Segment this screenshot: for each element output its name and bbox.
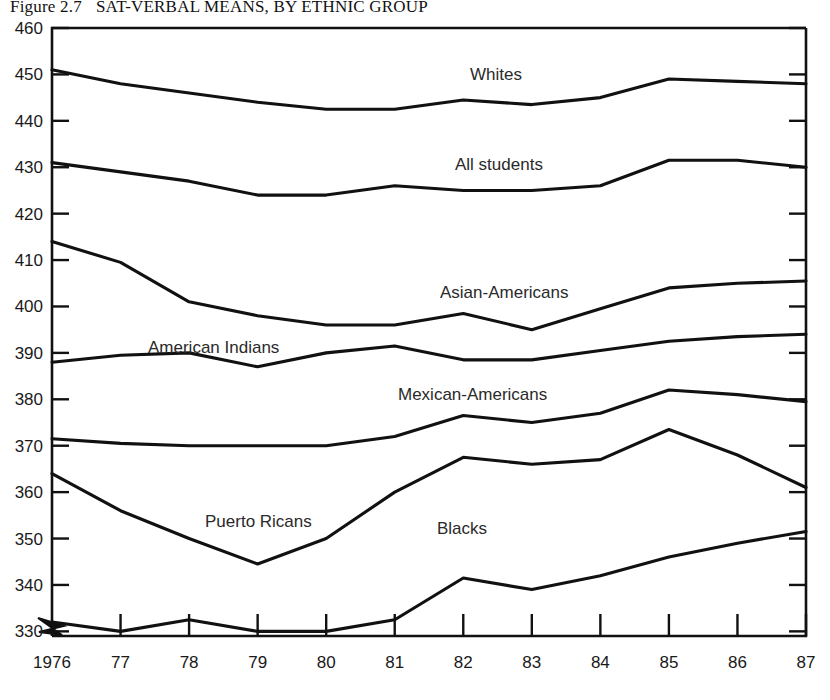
y-tick-label: 420 [15, 205, 43, 224]
series-label-group: WhitesAll studentsAsian-AmericansAmerica… [148, 65, 569, 538]
series-label-asian-americans: Asian-Americans [440, 283, 569, 302]
y-tick-label: 340 [15, 576, 43, 595]
x-tick-label: 81 [385, 653, 404, 672]
y-tick-label: 400 [15, 297, 43, 316]
axis-bottom-right [52, 28, 806, 636]
x-tick-label: 79 [248, 653, 267, 672]
x-tick-label: 85 [659, 653, 678, 672]
x-tick-label: 83 [522, 653, 541, 672]
y-tick-label: 380 [15, 390, 43, 409]
y-axis-tick-labels: 3303403503603703803904004104204304404504… [15, 19, 43, 641]
series-line-puerto-ricans [52, 429, 806, 564]
plot-frame [38, 28, 806, 636]
y-tick-label: 450 [15, 65, 43, 84]
series-label-mexican-americans: Mexican-Americans [398, 385, 547, 404]
series-label-puerto-ricans: Puerto Ricans [205, 512, 312, 531]
x-tick-label: 80 [317, 653, 336, 672]
y-tick-label: 460 [15, 19, 43, 38]
x-tick-label: 86 [728, 653, 747, 672]
y-tick-label: 390 [15, 344, 43, 363]
series-line-all-students [52, 160, 806, 195]
x-tick-label: 84 [591, 653, 610, 672]
series-label-whites: Whites [470, 65, 522, 84]
figure-container: Figure 2.7SAT-VERBAL MEANS, BY ETHNIC GR… [0, 0, 830, 700]
y-tick-label: 360 [15, 483, 43, 502]
axis-left-top [52, 28, 806, 636]
y-axis-ticks [52, 28, 806, 631]
x-tick-label: 77 [111, 653, 130, 672]
series-label-all-students: All students [455, 155, 543, 174]
series-line-whites [52, 70, 806, 109]
series-label-american-indians: American Indians [148, 338, 279, 357]
y-tick-label: 410 [15, 251, 43, 270]
x-tick-label: 82 [454, 653, 473, 672]
y-tick-label: 430 [15, 158, 43, 177]
series-label-blacks: Blacks [437, 519, 487, 538]
series-line-asian-americans [52, 242, 806, 330]
x-axis-tick-labels: 19767778798081828384858687 [33, 653, 815, 672]
y-tick-label: 440 [15, 112, 43, 131]
y-tick-label: 370 [15, 437, 43, 456]
sat-verbal-line-chart: 3303403503603703803904004104204304404504… [0, 0, 830, 700]
series-line-blacks [52, 532, 806, 632]
x-tick-label: 87 [797, 653, 816, 672]
y-tick-label: 350 [15, 530, 43, 549]
x-tick-label: 1976 [33, 653, 71, 672]
y-tick-label: 330 [15, 622, 43, 641]
x-tick-label: 78 [180, 653, 199, 672]
